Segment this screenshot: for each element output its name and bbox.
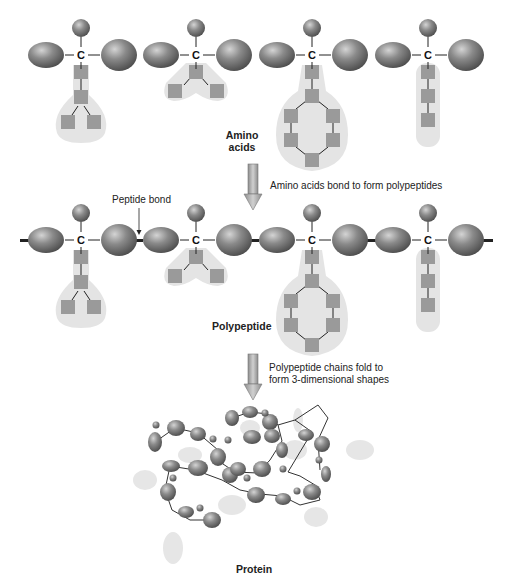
step2-caption: Polypeptide chains fold to form 3-dimens…	[269, 362, 389, 386]
step1-caption: Amino acids bond to form polypeptides	[270, 180, 442, 191]
amino-acid-4	[375, 19, 484, 147]
down-arrow-icon	[244, 164, 262, 210]
amino-acid-3	[259, 19, 368, 171]
protein-structure	[133, 405, 374, 564]
amino-acid-1	[28, 19, 137, 143]
amino-acid-2	[143, 19, 252, 101]
amino-acids-label-line1: Amino	[218, 129, 266, 141]
down-arrow-icon	[244, 354, 262, 400]
amino-acids-label-line2: acids	[218, 141, 266, 153]
step2-caption-line2: form 3-dimensional shapes	[269, 374, 389, 386]
polypeptide-chain	[20, 204, 493, 356]
protein-formation-diagram: C	[0, 0, 508, 580]
peptide-bond-label: Peptide bond	[112, 194, 171, 205]
polypeptide-label: Polypeptide	[212, 320, 272, 332]
amino-acids-label: Amino acids	[218, 129, 266, 153]
protein-label: Protein	[236, 563, 272, 575]
step2-caption-line1: Polypeptide chains fold to	[269, 362, 389, 374]
